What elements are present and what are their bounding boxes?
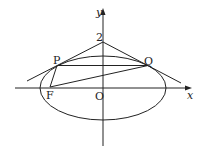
- segment-fq: [50, 66, 148, 88]
- y-intercept-label: 2: [96, 31, 103, 44]
- point-q-label: Q: [144, 55, 153, 68]
- tangent-line-p: [27, 42, 103, 81]
- ellipse-tangent-diagram: y x O 2 P Q F: [0, 0, 203, 163]
- point-p-label: P: [53, 54, 61, 67]
- x-axis-label: x: [187, 89, 194, 102]
- y-axis-label: y: [95, 6, 103, 19]
- point-f-label: F: [46, 89, 54, 102]
- origin-label: O: [95, 90, 104, 103]
- tangent-line-q: [103, 42, 181, 83]
